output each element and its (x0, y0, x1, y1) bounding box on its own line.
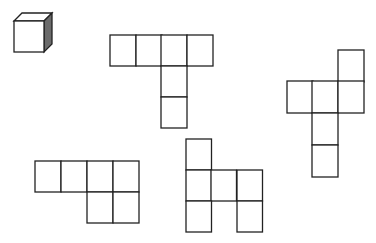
cube-icon (14, 13, 52, 52)
net-c (35, 161, 139, 223)
net-square (237, 170, 263, 201)
net-square (87, 161, 113, 192)
cube-front-face (14, 21, 44, 52)
net-square (161, 35, 187, 66)
net-square (186, 170, 212, 201)
net-square (312, 145, 338, 177)
net-square (187, 35, 213, 66)
net-square (61, 161, 87, 192)
net-square (312, 113, 338, 145)
net-square (136, 35, 162, 66)
net-square (237, 201, 263, 232)
net-square (113, 161, 139, 192)
net-square (338, 50, 364, 82)
net-a (110, 35, 213, 128)
net-square (312, 81, 338, 113)
net-square (113, 192, 139, 223)
net-square (338, 81, 364, 113)
net-square (161, 97, 187, 128)
net-square (87, 192, 113, 223)
net-square (110, 35, 136, 66)
figure-canvas (0, 0, 376, 243)
net-b (287, 50, 364, 177)
net-square (186, 201, 212, 232)
net-square (161, 66, 187, 97)
net-square (287, 81, 313, 113)
net-d (186, 139, 263, 232)
net-square (35, 161, 61, 192)
cube-nets (35, 35, 364, 232)
net-square (211, 170, 237, 201)
net-square (186, 139, 212, 170)
